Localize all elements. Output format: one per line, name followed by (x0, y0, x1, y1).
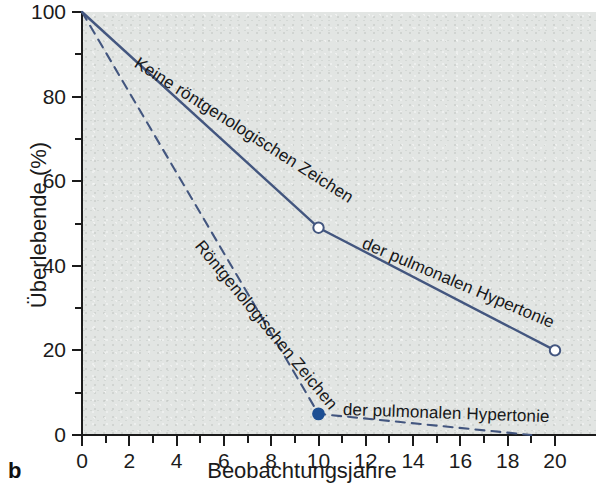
data-point-marker-solid-1 (550, 345, 560, 355)
survival-chart-figure: 02040608010002468101214161820 Keine rönt… (0, 0, 596, 490)
data-point-marker-solid-0 (313, 223, 323, 233)
x-axis-title: Beobachtungsjahre (82, 458, 522, 484)
panel-label: b (8, 458, 21, 484)
y-axis-title: Überlebende (%) (26, 75, 52, 375)
